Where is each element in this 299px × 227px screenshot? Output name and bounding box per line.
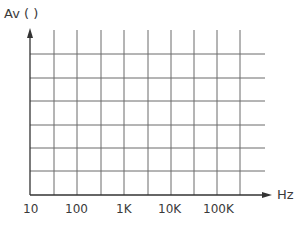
x-tick-label: 10 xyxy=(23,202,38,216)
x-axis-arrow-icon xyxy=(262,192,272,198)
gain-frequency-grid xyxy=(0,0,299,227)
x-tick-label: 100 xyxy=(65,202,88,216)
x-tick-label: 100K xyxy=(203,202,234,216)
x-tick-label: 10K xyxy=(158,202,181,216)
x-axis-unit-label: Hz xyxy=(277,187,294,202)
y-axis-label: Av ( ) xyxy=(4,6,38,21)
y-axis-arrow-icon xyxy=(27,28,33,38)
x-tick-label: 1K xyxy=(116,202,132,216)
